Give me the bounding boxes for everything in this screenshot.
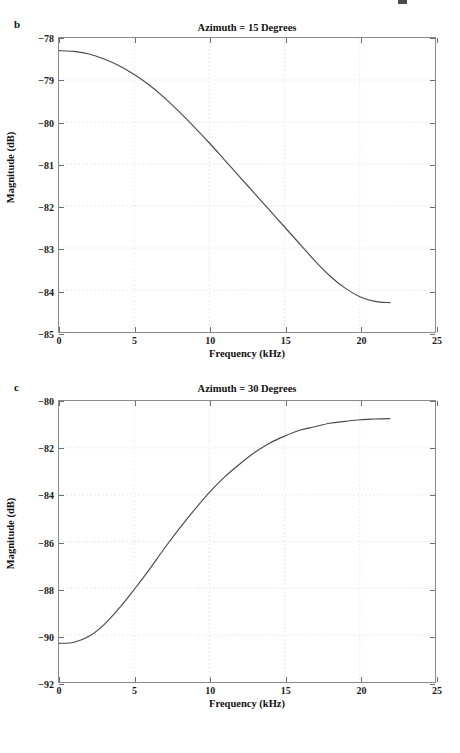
x-tick-label: 20 bbox=[356, 685, 366, 696]
x-tick-mark bbox=[59, 401, 60, 406]
x-tick-label: 20 bbox=[356, 335, 366, 346]
y-tick-mark bbox=[430, 165, 435, 166]
chart-title-b: Azimuth = 15 Degrees bbox=[58, 22, 436, 33]
y-tick-mark bbox=[430, 637, 435, 638]
y-tick-mark bbox=[430, 292, 435, 293]
y-tick-mark bbox=[59, 249, 64, 250]
y-tick-label: −83 bbox=[38, 244, 54, 255]
plot-area-c: −92−90−88−86−84−82−800510152025 bbox=[58, 400, 436, 683]
y-tick-label: −82 bbox=[38, 202, 54, 213]
y-tick-mark bbox=[430, 80, 435, 81]
x-tick-label: 15 bbox=[281, 685, 291, 696]
x-tick-mark bbox=[361, 327, 362, 332]
y-tick-label: −79 bbox=[38, 75, 54, 86]
x-tick-label: 25 bbox=[432, 335, 442, 346]
x-tick-label: 5 bbox=[132, 335, 137, 346]
data-series-line bbox=[59, 51, 390, 303]
x-tick-mark bbox=[59, 677, 60, 682]
panel-letter-b: b bbox=[14, 18, 20, 30]
y-tick-label: −81 bbox=[38, 159, 54, 170]
y-tick-mark bbox=[430, 590, 435, 591]
y-axis-label-b: Magnitude (dB) bbox=[5, 118, 16, 218]
y-tick-mark bbox=[59, 207, 64, 208]
plot-canvas-c bbox=[59, 401, 435, 682]
x-tick-mark bbox=[286, 38, 287, 43]
y-tick-label: −85 bbox=[38, 329, 54, 340]
x-tick-label: 25 bbox=[432, 685, 442, 696]
y-tick-label: −88 bbox=[38, 584, 54, 595]
x-axis-label-c: Frequency (kHz) bbox=[58, 698, 436, 709]
x-tick-label: 0 bbox=[57, 335, 62, 346]
y-tick-mark bbox=[59, 543, 64, 544]
plot-canvas-b bbox=[59, 38, 435, 332]
y-tick-mark bbox=[430, 448, 435, 449]
x-tick-mark bbox=[286, 327, 287, 332]
y-tick-mark bbox=[59, 495, 64, 496]
x-tick-mark bbox=[437, 38, 438, 43]
x-tick-mark bbox=[361, 401, 362, 406]
y-tick-label: −84 bbox=[38, 286, 54, 297]
y-tick-mark bbox=[430, 495, 435, 496]
x-tick-label: 15 bbox=[281, 335, 291, 346]
y-axis-label-c: Magnitude (dB) bbox=[5, 484, 16, 584]
x-tick-label: 10 bbox=[205, 335, 215, 346]
y-tick-mark bbox=[59, 123, 64, 124]
chart-title-c: Azimuth = 30 Degrees bbox=[58, 383, 436, 394]
y-tick-label: −92 bbox=[38, 679, 54, 690]
x-tick-mark bbox=[59, 38, 60, 43]
x-tick-mark bbox=[437, 401, 438, 406]
x-tick-mark bbox=[361, 38, 362, 43]
x-tick-mark bbox=[361, 677, 362, 682]
y-tick-label: −80 bbox=[38, 396, 54, 407]
x-tick-mark bbox=[135, 38, 136, 43]
x-tick-mark bbox=[210, 327, 211, 332]
y-tick-mark bbox=[430, 249, 435, 250]
y-tick-label: −78 bbox=[38, 33, 54, 44]
data-series-line bbox=[59, 419, 390, 644]
x-tick-mark bbox=[59, 327, 60, 332]
x-tick-mark bbox=[135, 401, 136, 406]
panel-letter-c: c bbox=[14, 381, 19, 393]
y-tick-mark bbox=[430, 123, 435, 124]
y-tick-mark bbox=[430, 401, 435, 402]
y-tick-mark bbox=[430, 543, 435, 544]
y-tick-mark bbox=[59, 590, 64, 591]
y-tick-label: −86 bbox=[38, 537, 54, 548]
x-tick-mark bbox=[286, 401, 287, 406]
x-tick-mark bbox=[210, 38, 211, 43]
x-tick-mark bbox=[210, 401, 211, 406]
y-tick-mark bbox=[59, 292, 64, 293]
y-tick-label: −82 bbox=[38, 443, 54, 454]
plot-area-b: −85−84−83−82−81−80−79−780510152025 bbox=[58, 37, 436, 333]
figure-container: b Azimuth = 15 Degrees −85−84−83−82−81−8… bbox=[0, 0, 460, 753]
x-tick-mark bbox=[437, 677, 438, 682]
x-tick-mark bbox=[286, 677, 287, 682]
panel-b: b Azimuth = 15 Degrees −85−84−83−82−81−8… bbox=[0, 0, 460, 375]
x-tick-mark bbox=[210, 677, 211, 682]
x-tick-label: 10 bbox=[205, 685, 215, 696]
x-tick-label: 0 bbox=[57, 685, 62, 696]
y-tick-mark bbox=[59, 448, 64, 449]
x-tick-label: 5 bbox=[132, 685, 137, 696]
y-tick-mark bbox=[59, 165, 64, 166]
x-tick-mark bbox=[135, 677, 136, 682]
panel-c: c Azimuth = 30 Degrees −92−90−88−86−84−8… bbox=[0, 368, 460, 753]
y-tick-mark bbox=[59, 80, 64, 81]
y-tick-label: −84 bbox=[38, 490, 54, 501]
y-tick-label: −90 bbox=[38, 631, 54, 642]
y-tick-mark bbox=[430, 38, 435, 39]
y-tick-mark bbox=[430, 207, 435, 208]
y-tick-mark bbox=[59, 637, 64, 638]
y-tick-label: −80 bbox=[38, 117, 54, 128]
x-axis-label-b: Frequency (kHz) bbox=[58, 348, 436, 359]
x-tick-mark bbox=[135, 327, 136, 332]
x-tick-mark bbox=[437, 327, 438, 332]
